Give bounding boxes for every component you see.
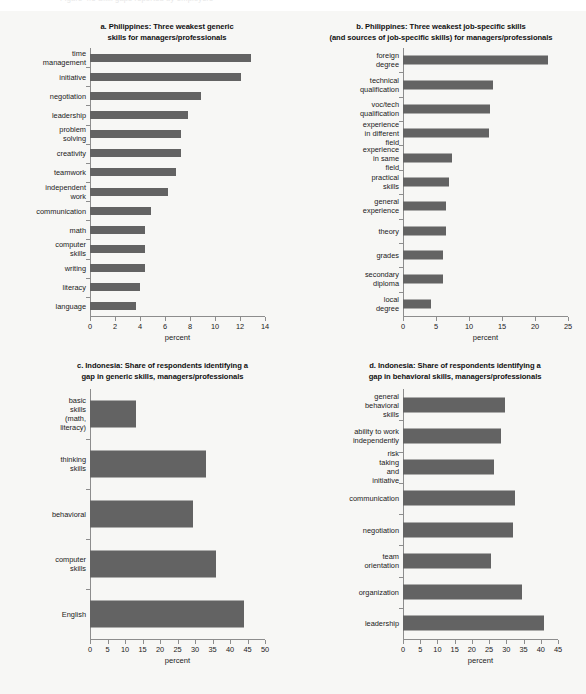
x-axis-title: percent [90, 333, 265, 342]
category-label: grades [376, 251, 399, 260]
x-tick-mark [541, 640, 542, 644]
bar-row: general experience [403, 194, 568, 218]
bar [90, 501, 193, 528]
x-tick-mark [178, 640, 179, 644]
bar [90, 92, 201, 100]
category-label: language [56, 302, 86, 311]
category-label: negotiation [363, 525, 399, 534]
bar-row: initiative [90, 67, 265, 86]
category-label: team orientation [364, 552, 399, 570]
bar [90, 188, 168, 196]
x-axis-title: percent [403, 333, 568, 342]
bar-row: secondary diploma [403, 267, 568, 291]
category-label: theory [378, 226, 399, 235]
x-tick-mark [502, 317, 503, 321]
bar [403, 275, 443, 284]
category-label: basic skills (math, literacy) [60, 396, 86, 432]
x-tick-label: 0 [401, 322, 405, 331]
category-label: math [70, 225, 86, 234]
bar-row: thinking skills [90, 439, 265, 489]
bar [403, 491, 515, 506]
x-tick-mark [535, 317, 536, 321]
x-tick-label: 5 [418, 645, 422, 654]
bar [90, 264, 145, 272]
bar [90, 130, 181, 138]
x-tick-label: 15 [451, 645, 459, 654]
bar [403, 585, 522, 600]
bar [90, 73, 241, 81]
x-tick-label: 0 [88, 645, 92, 654]
category-label: foreign degree [376, 51, 399, 69]
category-label: leadership [365, 619, 399, 628]
bar-row: time management [90, 48, 265, 67]
bar [403, 80, 493, 89]
x-axis-line [90, 316, 265, 317]
bar-row: math [90, 220, 265, 239]
x-axis-title: percent [90, 656, 265, 665]
bar [90, 168, 176, 176]
bar-row: experience in same field [403, 145, 568, 169]
bar [403, 616, 544, 631]
chart-panel-b: b. Philippines: Three weakest job-specif… [293, 14, 586, 347]
bar [90, 54, 251, 62]
bar [90, 302, 136, 310]
x-tick-label: 10 [433, 645, 441, 654]
x-tick-mark [403, 317, 404, 321]
bar [403, 104, 490, 113]
category-label: initiative [59, 72, 86, 81]
panel-d-title-line1: d. Indonesia: Share of respondents ident… [335, 361, 575, 372]
bar-row: leadership [90, 105, 265, 124]
bar [403, 251, 443, 260]
bar [403, 226, 446, 235]
bar-row: teamwork [90, 163, 265, 182]
category-label: thinking skills [61, 455, 86, 473]
bar-row: practical skills [403, 170, 568, 194]
bar-row: theory [403, 219, 568, 243]
x-tick-label: 0 [401, 645, 405, 654]
bar [90, 111, 188, 119]
bar-row: negotiation [90, 86, 265, 105]
category-label: organization [359, 588, 399, 597]
panel-a-title-line2: skills for managers/professionals [62, 33, 272, 44]
category-label: writing [65, 264, 86, 273]
bar-row: negotiation [403, 514, 558, 545]
bar-row: ability to work independently [403, 420, 558, 451]
x-tick-label: 30 [191, 645, 199, 654]
panel-c-title: c. Indonesia: Share of respondents ident… [45, 355, 280, 382]
bar-row: English [90, 589, 265, 639]
x-tick-mark [506, 640, 507, 644]
panel-b-plot-area: foreign degreetechnical qualificationvoc… [403, 48, 568, 316]
x-tick-mark [160, 640, 161, 644]
bar-row: problem solving [90, 125, 265, 144]
x-tick-label: 5 [434, 322, 438, 331]
category-label: independent work [45, 183, 86, 201]
x-tick-mark [165, 317, 166, 321]
x-tick-mark [213, 640, 214, 644]
x-tick-label: 15 [138, 645, 146, 654]
bar [90, 551, 216, 578]
x-tick-mark [140, 317, 141, 321]
x-tick-mark [190, 317, 191, 321]
category-label: experience in different field [363, 120, 399, 147]
bar-row: technical qualification [403, 72, 568, 96]
category-label: behavioral [52, 510, 86, 519]
x-tick-mark [115, 317, 116, 321]
bar-row: experience in different field [403, 121, 568, 145]
bar-row: leadership [403, 608, 558, 639]
category-label: technical qualification [360, 76, 399, 94]
panel-c-title-line1: c. Indonesia: Share of respondents ident… [45, 361, 280, 372]
x-tick-label: 20 [156, 645, 164, 654]
bar-row: computer skills [90, 539, 265, 589]
x-tick-mark [90, 317, 91, 321]
bar [90, 226, 145, 234]
bar-row: computer skills [90, 239, 265, 258]
bar-row: risk taking and initiative [403, 452, 558, 483]
bar-row: writing [90, 259, 265, 278]
x-tick-label: 2 [113, 322, 117, 331]
category-label: negotiation [50, 91, 86, 100]
category-label: creativity [57, 149, 86, 158]
chart-panel-c: c. Indonesia: Share of respondents ident… [0, 355, 293, 694]
x-tick-mark [403, 640, 404, 644]
category-label: leadership [52, 110, 86, 119]
x-tick-label: 14 [261, 322, 269, 331]
